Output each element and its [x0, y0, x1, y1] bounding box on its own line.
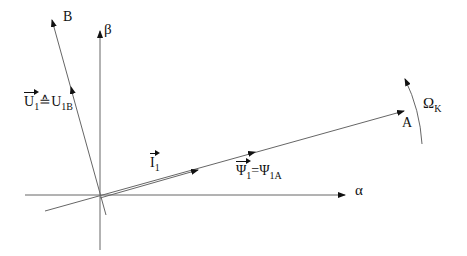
flux-rhs-symbol: Ψ [259, 163, 269, 178]
voltage-symbol: U [24, 94, 34, 109]
phasor-diagram: B β α A ΩK U1≙U1B I1 Ψ1=Ψ1A [0, 0, 467, 256]
b-axis-line [52, 20, 106, 215]
flux-label: Ψ1=Ψ1A [236, 164, 282, 178]
current-vector-symbol: I1 [150, 156, 160, 170]
omega-symbol: Ω [423, 95, 434, 111]
rotation-label: ΩK [423, 96, 441, 111]
b-axis-label: B [63, 10, 72, 24]
voltage-rhs-subscript: 1B [61, 101, 73, 112]
flux-phasor [100, 152, 255, 195]
omega-subscript: K [434, 103, 441, 114]
rotation-arc [405, 79, 422, 144]
voltage-label: U1≙U1B [24, 95, 73, 109]
beta-axis-label: β [104, 22, 112, 37]
voltage-rhs-symbol: U [51, 94, 61, 109]
diagram-lines [0, 0, 467, 256]
voltage-vector-symbol: U1 [24, 95, 39, 109]
a-axis-line [45, 111, 404, 211]
voltage-subscript: 1 [34, 101, 39, 112]
current-subscript: 1 [155, 162, 160, 173]
current-label: I1 [150, 156, 160, 170]
current-phasor [100, 170, 198, 198]
a-axis-label: A [402, 116, 412, 130]
flux-vector-symbol: Ψ1 [236, 164, 251, 178]
voltage-relation: ≙ [39, 94, 51, 109]
flux-symbol: Ψ [236, 163, 246, 178]
alpha-axis-label: α [355, 183, 363, 198]
flux-rhs-subscript: 1A [270, 170, 282, 181]
flux-subscript: 1 [246, 170, 251, 181]
current-symbol: I [150, 155, 155, 170]
